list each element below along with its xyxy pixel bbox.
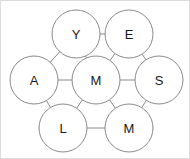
graph-node-e[interactable]: E: [105, 10, 153, 58]
graph-node-m1[interactable]: M: [72, 56, 120, 104]
graph-svg: YEAMSLM: [1, 1, 190, 159]
graph-edge-y-a: [50, 52, 60, 63]
node-label-s: S: [155, 73, 164, 88]
graph-edge-m1-l: [77, 100, 83, 108]
graph-edge-a-l: [46, 101, 50, 108]
graph-edge-e-s: [142, 54, 146, 60]
graph-node-s[interactable]: S: [135, 56, 183, 104]
node-label-y: Y: [72, 27, 81, 42]
node-label-l: L: [59, 121, 66, 136]
graph-edge-m1-m2: [110, 100, 116, 108]
graph-node-a[interactable]: A: [10, 56, 58, 104]
graph-edge-s-m2: [142, 100, 147, 107]
graph-node-y[interactable]: Y: [52, 10, 100, 58]
diagram-canvas: YEAMSLM: [0, 0, 190, 159]
node-label-a: A: [30, 73, 39, 88]
graph-edge-e-m1: [110, 54, 115, 61]
node-label-m2: M: [124, 121, 135, 136]
graph-node-m2[interactable]: M: [105, 104, 153, 152]
node-layer: YEAMSLM: [10, 10, 183, 152]
graph-node-l[interactable]: L: [39, 104, 87, 152]
node-label-e: E: [125, 27, 134, 42]
node-label-m1: M: [91, 73, 102, 88]
